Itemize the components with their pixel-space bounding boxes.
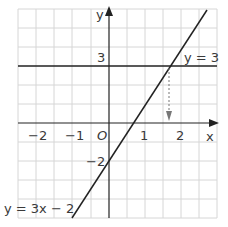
graph: y x O −2 −1 1 2 3 −2 y = 3 y = 3x − 2 [0, 0, 228, 227]
tick-x-minus-2: −2 [28, 128, 47, 143]
tick-x-1: 1 [140, 128, 148, 143]
label-y-equals-3: y = 3 [184, 50, 219, 65]
y-axis-arrow-icon [105, 6, 113, 16]
line-y-equals-3x-minus-2 [72, 10, 207, 218]
tick-x-2: 2 [176, 128, 184, 143]
x-axis-label: x [206, 129, 214, 144]
tick-y-3: 3 [97, 50, 105, 65]
projection-arrow-icon [166, 111, 172, 121]
origin-label: O [97, 128, 107, 143]
tick-x-minus-1: −1 [65, 128, 84, 143]
tick-y-minus-2: −2 [86, 154, 105, 169]
axes [18, 12, 214, 218]
label-y-equals-3x-minus-2: y = 3x − 2 [4, 201, 74, 216]
y-axis-label: y [96, 7, 104, 22]
